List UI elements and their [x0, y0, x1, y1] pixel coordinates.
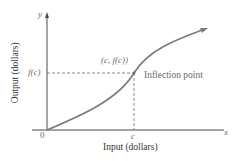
inflection-point-annotation: Inflection point [144, 71, 203, 81]
y-axis-arrow-icon [45, 12, 49, 18]
fc-tick-label: f(c) [28, 68, 41, 77]
c-tick-label: c [131, 132, 135, 141]
x-axis-symbol: x [224, 128, 228, 137]
curve-arrow-icon [200, 28, 208, 33]
inflection-diagram [0, 0, 239, 161]
origin-label: 0 [40, 131, 45, 140]
inflection-point-marker [133, 72, 136, 75]
y-axis-symbol: y [38, 10, 42, 19]
y-axis-title: Output (dollars) [11, 35, 21, 110]
x-axis-title: Input (dollars) [103, 143, 158, 153]
point-label: (c, f(c)) [101, 56, 128, 65]
